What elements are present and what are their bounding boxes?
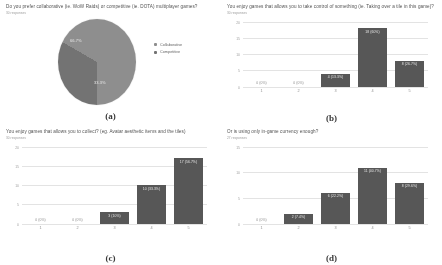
bar-value-label: 0 (0%) <box>72 218 82 222</box>
bar-value-label: 2 (7.4%) <box>292 215 305 219</box>
legend-label-competitive: Competitive <box>160 50 180 54</box>
bar-value-label: 3 (10%) <box>108 214 120 218</box>
response-count-b: 30 responses <box>227 11 436 15</box>
legend-item-collaborative: Collaborative <box>154 43 182 47</box>
x-tick-label: 1 <box>39 226 41 230</box>
y-tick-label: 10 <box>236 171 240 175</box>
bar-column[interactable]: 11 (40.7%) 4 <box>358 147 388 224</box>
panel-c: You enjoy games that allows you to colle… <box>0 125 221 265</box>
bars-c: 0 (0%) 1 0 (0%) 2 3 (10%) 3 10 (33.3%) <box>22 147 207 224</box>
legend-label-collaborative: Collaborative <box>160 43 182 47</box>
panel-a: Do you prefer collaborative (ie. WoW Rai… <box>0 0 221 125</box>
bars-d: 0 (0%) 1 2 (7.4%) 2 6 (22.2%) 3 11 (40.7… <box>243 147 428 224</box>
bar-column[interactable]: 0 (0%) 1 <box>26 147 56 224</box>
bars-b: 0 (0%) 1 0 (0%) 2 4 (13.3%) 3 18 (60%) <box>243 22 428 87</box>
x-tick-label: 3 <box>334 226 336 230</box>
bar-value-label: 0 (0%) <box>256 218 266 222</box>
pie-legend: Collaborative Competitive <box>154 43 182 58</box>
bar-column[interactable]: 0 (0%) 1 <box>247 147 277 224</box>
bar-column[interactable]: 3 (10%) 3 <box>100 147 130 224</box>
bar-value-label: 6 (22.2%) <box>328 194 343 198</box>
y-tick-label: 15 <box>236 37 240 41</box>
subfigure-caption-b: (b) <box>221 113 442 123</box>
x-tick-label: 1 <box>260 89 262 93</box>
y-tick-label: 5 <box>17 203 19 207</box>
bar-value-label: 4 (13.3%) <box>328 75 343 79</box>
bar-value-label: 0 (0%) <box>293 81 303 85</box>
legend-item-competitive: Competitive <box>154 50 182 54</box>
panel-d: Or is using only in-game currency enough… <box>221 125 442 265</box>
bar-value-label: 10 (33.3%) <box>143 187 160 191</box>
y-tick-label: 10 <box>15 184 19 188</box>
pie-slice-label-collaborative: 66.7% <box>70 38 82 43</box>
bar-column[interactable]: 0 (0%) 2 <box>284 22 314 87</box>
subfigure-caption-a: (a) <box>0 111 221 121</box>
bar-chart-c: 20 15 10 5 0 0 (0%) 1 0 (0%) 2 <box>6 143 215 239</box>
question-title-b: You enjoy games that allows you to take … <box>227 4 436 10</box>
y-tick-label: 0 <box>238 223 240 227</box>
plot-area-b: 20 15 10 5 0 0 (0%) 1 0 (0%) 2 <box>243 22 428 88</box>
y-tick-label: 0 <box>238 86 240 90</box>
bar-value-label: 8 (26.7%) <box>402 62 417 66</box>
bar-value-label: 18 (60%) <box>365 30 379 34</box>
figure-grid: Do you prefer collaborative (ie. WoW Rai… <box>0 0 442 265</box>
bar-chart-d: 15 10 5 0 0 (0%) 1 2 (7.4%) 2 6 (22.2% <box>227 143 436 239</box>
bar-value-label: 17 (56.7%) <box>180 160 197 164</box>
y-tick-label: 5 <box>238 69 240 73</box>
question-title-d: Or is using only in-game currency enough… <box>227 129 436 135</box>
question-title-c: You enjoy games that allows you to colle… <box>6 129 215 135</box>
y-tick-label: 15 <box>15 165 19 169</box>
bar-column[interactable]: 0 (0%) 2 <box>63 147 93 224</box>
bar-column[interactable]: 0 (0%) 1 <box>247 22 277 87</box>
pie-chart-a: 66.7% 33.3% Collaborative Competitive <box>6 17 215 103</box>
question-title-a: Do you prefer collaborative (ie. WoW Rai… <box>6 4 215 10</box>
x-tick-label: 5 <box>408 89 410 93</box>
bar-column[interactable]: 8 (29.6%) 5 <box>395 147 425 224</box>
bar-column[interactable]: 6 (22.2%) 3 <box>321 147 351 224</box>
x-tick-label: 4 <box>371 226 373 230</box>
panel-b: You enjoy games that allows you to take … <box>221 0 442 125</box>
x-tick-label: 2 <box>76 226 78 230</box>
bar-column[interactable]: 2 (7.4%) 2 <box>284 147 314 224</box>
plot-area-d: 15 10 5 0 0 (0%) 1 2 (7.4%) 2 6 (22.2% <box>243 147 428 225</box>
subfigure-caption-c: (c) <box>0 253 221 263</box>
bar-column[interactable]: 4 (13.3%) 3 <box>321 22 351 87</box>
y-tick-label: 0 <box>17 223 19 227</box>
pie-graphic <box>58 19 136 105</box>
x-tick-label: 5 <box>408 226 410 230</box>
x-tick-label: 4 <box>150 226 152 230</box>
y-tick-label: 5 <box>238 197 240 201</box>
response-count-a: 30 responses <box>6 11 215 15</box>
x-tick-label: 1 <box>260 226 262 230</box>
bar-chart-b: 20 15 10 5 0 0 (0%) 1 0 (0%) 2 <box>227 18 436 102</box>
bar-column[interactable]: 18 (60%) 4 <box>358 22 388 87</box>
legend-swatch-icon <box>154 51 157 54</box>
response-count-d: 27 responses <box>227 136 436 140</box>
legend-swatch-icon <box>154 43 157 46</box>
y-tick-label: 15 <box>236 146 240 150</box>
y-tick-label: 20 <box>236 21 240 25</box>
pie-slice-label-competitive: 33.3% <box>94 80 106 85</box>
y-tick-label: 20 <box>15 146 19 150</box>
x-tick-label: 2 <box>297 226 299 230</box>
response-count-c: 30 responses <box>6 136 215 140</box>
x-tick-label: 4 <box>371 89 373 93</box>
bar-value-label: 0 (0%) <box>256 81 266 85</box>
bar-column[interactable]: 10 (33.3%) 4 <box>137 147 167 224</box>
bar-column[interactable]: 17 (56.7%) 5 <box>174 147 204 224</box>
plot-area-c: 20 15 10 5 0 0 (0%) 1 0 (0%) 2 <box>22 147 207 225</box>
x-tick-label: 3 <box>334 89 336 93</box>
bar-value-label: 0 (0%) <box>35 218 45 222</box>
bar-column[interactable]: 8 (26.7%) 5 <box>395 22 425 87</box>
x-tick-label: 5 <box>187 226 189 230</box>
bar-value-label: 8 (29.6%) <box>402 184 417 188</box>
bar-value-label: 11 (40.7%) <box>364 169 381 173</box>
y-tick-label: 10 <box>236 53 240 57</box>
x-tick-label: 3 <box>113 226 115 230</box>
subfigure-caption-d: (d) <box>221 253 442 263</box>
x-tick-label: 2 <box>297 89 299 93</box>
